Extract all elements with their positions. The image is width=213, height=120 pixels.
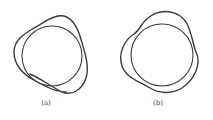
panel-b: (b) (106, 0, 213, 120)
knot-diagram-b (106, 0, 213, 100)
knot-diagram-a (0, 0, 107, 100)
panel-label-b: (b) (143, 99, 173, 107)
panel-label-a: (a) (31, 99, 61, 107)
panel-a: (a) (0, 0, 107, 120)
